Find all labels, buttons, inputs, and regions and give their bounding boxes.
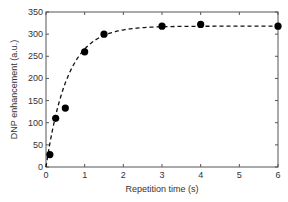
x-tick-label: 3 [159, 170, 164, 180]
data-point [100, 31, 107, 38]
y-tick-label: 200 [28, 73, 43, 83]
y-tick-label: 350 [28, 7, 43, 17]
x-tick-label: 2 [121, 170, 126, 180]
data-point [197, 21, 204, 28]
y-tick-label: 100 [28, 118, 43, 128]
data-point [158, 23, 165, 30]
y-tick-label: 50 [33, 140, 43, 150]
data-point [62, 105, 69, 112]
y-tick-label: 0 [38, 162, 43, 172]
x-tick-label: 0 [43, 170, 48, 180]
y-axis-label: DNP enhancement (a.u.) [9, 40, 19, 139]
y-tick-label: 150 [28, 96, 43, 106]
data-point [81, 48, 88, 55]
chart: 0123456050100150200250300350Repetition t… [0, 0, 288, 202]
x-tick-label: 4 [198, 170, 203, 180]
data-point [46, 151, 53, 158]
x-tick-label: 5 [237, 170, 242, 180]
x-tick-label: 1 [82, 170, 87, 180]
y-tick-label: 250 [28, 51, 43, 61]
data-point [52, 115, 59, 122]
y-tick-label: 300 [28, 29, 43, 39]
fit-curve [46, 26, 278, 167]
plot-frame [46, 12, 278, 167]
x-axis-label: Repetition time (s) [125, 184, 198, 194]
data-point [274, 23, 281, 30]
x-tick-label: 6 [275, 170, 280, 180]
